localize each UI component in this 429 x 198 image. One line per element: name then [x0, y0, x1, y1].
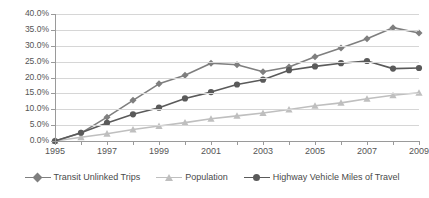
x-axis-tick-label: 2007	[357, 146, 377, 156]
data-point	[364, 35, 371, 42]
legend-triangle-icon	[156, 172, 182, 182]
x-axis-tick-label: 2009	[409, 146, 429, 156]
gridline	[55, 14, 419, 15]
x-axis-tick-mark	[367, 141, 368, 145]
x-axis-tick-label: 2001	[201, 146, 221, 156]
data-point	[312, 63, 318, 69]
legend-item-population[interactable]: Population	[156, 172, 228, 182]
x-axis-tick-label: 2003	[253, 146, 273, 156]
x-axis-tick-label: 1995	[45, 146, 65, 156]
legend-item-transit-unlinked-trips[interactable]: Transit Unlinked Trips	[25, 172, 141, 182]
data-point	[260, 68, 267, 75]
data-point	[182, 95, 188, 101]
y-axis-tick-label: 30.0%	[3, 41, 49, 50]
x-axis-tick-mark	[211, 141, 212, 145]
x-axis-tick-label: 1997	[97, 146, 117, 156]
data-point	[416, 65, 422, 71]
x-axis-tick-mark	[315, 141, 316, 145]
data-point	[390, 66, 396, 72]
y-axis-tick-label: 10.0%	[3, 104, 49, 113]
legend-label: Highway Vehicle Miles of Travel	[273, 172, 400, 182]
gridline	[55, 109, 419, 110]
gridline	[55, 46, 419, 47]
gridline	[55, 30, 419, 31]
x-axis-tick-mark	[159, 141, 160, 145]
data-point	[130, 111, 136, 117]
x-axis-tick-label: 2005	[305, 146, 325, 156]
legend-item-highway-vehicle-miles-of-travel[interactable]: Highway Vehicle Miles of Travel	[244, 172, 400, 182]
y-axis-tick-label: 5.0%	[3, 120, 49, 129]
gridline	[55, 93, 419, 94]
data-point	[312, 53, 319, 60]
y-axis-tick-label: 40.0%	[3, 9, 49, 18]
x-axis-tick-mark	[289, 141, 290, 145]
x-axis-tick-mark	[263, 141, 264, 145]
gridline	[55, 62, 419, 63]
data-point	[78, 130, 84, 136]
gridline	[55, 78, 419, 79]
chart-legend: Transit Unlinked TripsPopulationHighway …	[0, 172, 424, 182]
legend-label: Population	[185, 172, 228, 182]
y-axis-tick-label: 0.0%	[3, 136, 49, 145]
x-axis-tick-mark	[237, 141, 238, 145]
y-axis-tick-label: 35.0%	[3, 25, 49, 34]
x-axis-tick-mark	[81, 141, 82, 145]
x-axis-tick-mark	[419, 141, 420, 145]
y-axis-tick-label: 15.0%	[3, 88, 49, 97]
data-point	[286, 67, 292, 73]
legend-label: Transit Unlinked Trips	[54, 172, 141, 182]
x-axis-tick-label: 1999	[149, 146, 169, 156]
gridline	[55, 125, 419, 126]
x-axis-tick-mark	[185, 141, 186, 145]
x-axis-tick-mark	[341, 141, 342, 145]
data-point	[234, 81, 240, 87]
x-axis-tick-mark	[133, 141, 134, 145]
x-axis-tick-mark	[393, 141, 394, 145]
legend-diamond-icon	[25, 172, 51, 182]
y-axis-line	[55, 14, 56, 142]
x-axis-tick-mark	[107, 141, 108, 145]
legend-circle-icon	[244, 172, 270, 182]
y-axis-tick-label: 25.0%	[3, 57, 49, 66]
x-axis-tick-mark	[55, 141, 56, 145]
y-axis-tick-label: 20.0%	[3, 73, 49, 82]
